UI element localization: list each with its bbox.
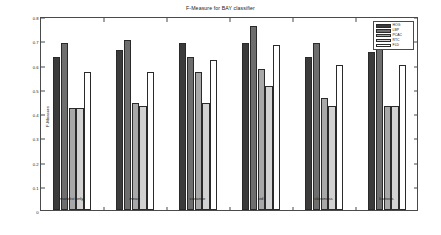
y-tick-mark <box>414 66 418 67</box>
y-axis-label: F-Measure <box>45 87 50 147</box>
bar-hog-variance <box>179 43 186 210</box>
y-tick-label: 0.7 <box>33 40 41 45</box>
x-tick-mark <box>293 18 294 22</box>
x-tick-label-skewness: skewness <box>314 196 332 201</box>
bar-hog-kurtosis <box>368 52 375 210</box>
bar-rtc-mandist-only <box>76 108 83 210</box>
legend-item-fld[interactable]: FLD <box>376 43 411 47</box>
y-tick-mark <box>414 90 418 91</box>
x-tick-mark <box>230 207 231 211</box>
bar-hog-std <box>242 43 249 210</box>
bar-fld-kurtosis <box>399 65 406 211</box>
legend-swatch-lbp <box>376 29 391 32</box>
y-tick-mark <box>41 66 45 67</box>
y-tick-mark <box>414 163 418 164</box>
y-tick-mark <box>414 187 418 188</box>
y-tick-mark <box>414 42 418 43</box>
legend-swatch-fld <box>376 44 391 47</box>
x-tick-label-variance: variance <box>190 196 206 201</box>
y-tick-label: 0.3 <box>33 137 41 142</box>
bar-group <box>53 18 92 210</box>
x-tick-mark <box>230 18 231 22</box>
figure-canvas: F-Measure for BAY classifier F-Measure 0… <box>0 0 441 235</box>
plot-area: F-Measure 00.10.20.30.40.50.60.70.8 HOGL… <box>40 17 418 211</box>
bar-hog-mean <box>116 50 123 210</box>
y-tick-mark <box>41 115 45 116</box>
x-tick-mark <box>167 18 168 22</box>
bar-group <box>116 18 155 210</box>
x-tick-label-kurtosis: kurtosis <box>379 196 393 201</box>
legend-swatch-hog <box>376 24 391 27</box>
bar-lbp-mandist-only <box>61 43 68 210</box>
y-tick-mark <box>41 163 45 164</box>
y-tick-mark <box>414 115 418 116</box>
bar-hog-mandist-only <box>53 57 60 210</box>
y-tick-mark <box>41 90 45 91</box>
bar-hog-skewness <box>305 57 312 210</box>
chart-legend[interactable]: HOGLBPPCACRTCFLD <box>373 21 414 50</box>
y-tick-mark <box>41 187 45 188</box>
legend-swatch-pcac <box>376 34 391 37</box>
x-tick-mark <box>104 207 105 211</box>
y-tick-label: 0.6 <box>33 64 41 69</box>
y-tick-label: 0.4 <box>33 113 41 118</box>
bar-fld-std <box>273 45 280 210</box>
bar-lbp-kurtosis <box>376 43 383 210</box>
bar-pcac-mean <box>132 103 139 210</box>
x-tick-mark <box>293 207 294 211</box>
x-tick-label-mean: mean <box>129 196 139 201</box>
bar-fld-skewness <box>336 65 343 211</box>
bar-pcac-skewness <box>321 98 328 210</box>
bar-fld-mandist-only <box>84 72 91 210</box>
legend-item-rtc[interactable]: RTC <box>376 38 411 42</box>
bar-rtc-mean <box>139 106 146 210</box>
bar-rtc-variance <box>202 103 209 210</box>
bar-group <box>242 18 281 210</box>
y-tick-label: 0 <box>36 210 41 215</box>
y-tick-mark <box>41 42 45 43</box>
bar-fld-mean <box>147 72 154 210</box>
x-tick-mark <box>356 207 357 211</box>
x-tick-label-std: std <box>258 196 264 201</box>
legend-label-fld: FLD <box>393 44 399 47</box>
y-tick-label: 0.1 <box>33 185 41 190</box>
bar-rtc-std <box>265 86 272 210</box>
bar-group <box>179 18 218 210</box>
bar-group <box>305 18 344 210</box>
bar-lbp-std <box>250 26 257 210</box>
x-tick-mark <box>356 18 357 22</box>
legend-label-pcac: PCAC <box>393 34 402 37</box>
y-tick-label: 0.8 <box>33 16 41 21</box>
y-tick-mark <box>41 139 45 140</box>
legend-swatch-rtc <box>376 39 391 42</box>
x-tick-label-mandist-only: mandist only <box>60 196 84 201</box>
chart-title: F-Measure for BAY classifier <box>0 5 441 11</box>
bar-pcac-variance <box>195 72 202 210</box>
bar-pcac-kurtosis <box>384 106 391 210</box>
y-tick-mark <box>414 139 418 140</box>
x-tick-mark <box>167 207 168 211</box>
x-tick-mark <box>104 18 105 22</box>
bar-fld-variance <box>210 60 217 210</box>
y-tick-label: 0.2 <box>33 161 41 166</box>
bar-lbp-variance <box>187 57 194 210</box>
legend-label-rtc: RTC <box>393 39 400 42</box>
bar-pcac-mandist-only <box>69 108 76 210</box>
bar-rtc-skewness <box>328 106 335 210</box>
bar-pcac-std <box>258 69 265 210</box>
y-tick-label: 0.5 <box>33 88 41 93</box>
bar-rtc-kurtosis <box>391 106 398 210</box>
y-tick-mark <box>414 18 418 19</box>
bar-lbp-skewness <box>313 43 320 210</box>
y-tick-mark <box>41 18 45 19</box>
bar-lbp-mean <box>124 40 131 210</box>
